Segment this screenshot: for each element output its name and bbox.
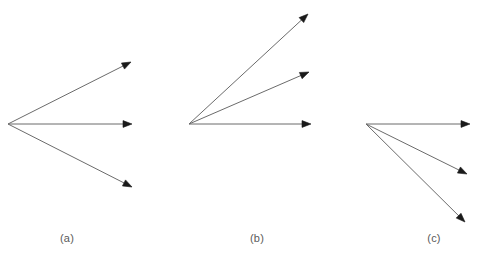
panel-c-caption: (c)	[427, 232, 440, 245]
vector-shaft-a-arrow-down	[8, 124, 125, 184]
arrowhead-b-arrow-mid	[299, 72, 309, 79]
arrowhead-c-arrow-lower	[457, 167, 467, 174]
arrowhead-b-arrow-horizontal	[302, 121, 311, 128]
vector-shaft-b-arrow-upper	[189, 19, 302, 124]
vector-shaft-c-arrow-lowest	[366, 124, 460, 217]
arrowhead-a-arrow-middle	[123, 121, 132, 128]
panel-c-vectors	[366, 121, 470, 222]
vector-fan-figure: (a) (b) (c)	[0, 0, 484, 260]
panel-a-vectors	[8, 62, 132, 187]
arrowhead-a-arrow-down	[122, 180, 132, 187]
arrowhead-c-arrow-horizontal	[461, 121, 470, 128]
vector-shaft-b-arrow-mid	[189, 75, 302, 124]
vector-shaft-c-arrow-lower	[366, 124, 460, 171]
panel-b-vectors	[189, 14, 311, 127]
vector-shaft-a-arrow-up	[8, 65, 124, 124]
arrowhead-a-arrow-up	[121, 62, 131, 69]
panel-b-caption: (b)	[250, 232, 264, 245]
panel-a-caption: (a)	[60, 232, 74, 245]
figure-canvas	[0, 0, 484, 260]
